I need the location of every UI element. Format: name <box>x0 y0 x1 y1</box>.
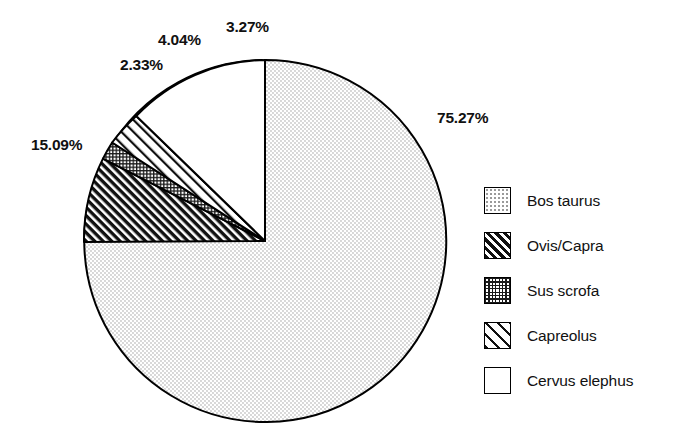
pie-label-ovis-capra: 15.09% <box>31 136 82 154</box>
legend-item-sus-scrofa[interactable]: Sus scrofa <box>484 268 684 313</box>
pie-label-bos-taurus: 75.27% <box>437 109 488 127</box>
chart-legend: Bos taurus Ovis/Capra Sus scrofa Capreol… <box>484 178 684 403</box>
legend-label-cervus-elephus: Cervus elephus <box>527 372 633 390</box>
legend-label-bos-taurus: Bos taurus <box>527 192 600 210</box>
pie-label-cervus-elephus: 3.27% <box>226 18 269 36</box>
legend-item-ovis-capra[interactable]: Ovis/Capra <box>484 223 684 268</box>
legend-label-capreolus: Capreolus <box>527 327 597 345</box>
pie-chart-figure: 75.27% 15.09% 2.33% 4.04% 3.27% Bos taur… <box>0 0 691 448</box>
legend-label-sus-scrofa: Sus scrofa <box>527 282 599 300</box>
legend-swatch-ovis-capra-icon <box>484 232 511 259</box>
legend-swatch-cervus-elephus-icon <box>484 367 511 394</box>
legend-item-bos-taurus[interactable]: Bos taurus <box>484 178 684 223</box>
legend-swatch-sus-scrofa-icon <box>484 277 511 304</box>
legend-swatch-capreolus-icon <box>484 322 511 349</box>
pie-label-capreolus: 4.04% <box>158 31 201 49</box>
pie-label-sus-scrofa: 2.33% <box>120 56 163 74</box>
legend-label-ovis-capra: Ovis/Capra <box>527 237 604 255</box>
legend-item-cervus-elephus[interactable]: Cervus elephus <box>484 358 684 403</box>
legend-item-capreolus[interactable]: Capreolus <box>484 313 684 358</box>
legend-swatch-bos-taurus-icon <box>484 187 511 214</box>
